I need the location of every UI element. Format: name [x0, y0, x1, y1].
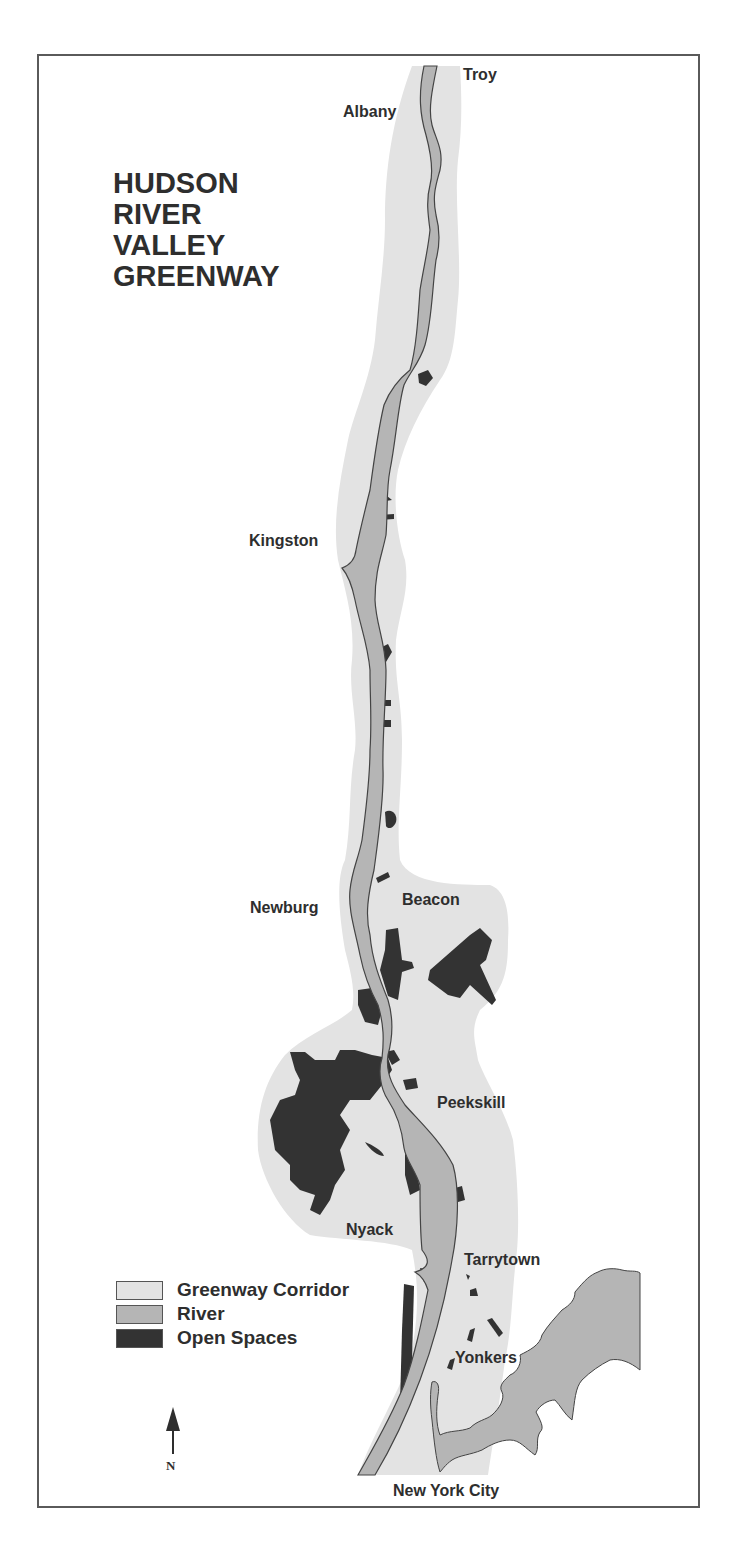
map-canvas	[0, 0, 742, 1556]
swatch-river	[116, 1305, 163, 1324]
swatch-greenway-corridor	[116, 1281, 163, 1300]
title-line-3: VALLEY	[113, 230, 280, 261]
legend-label: Greenway Corridor	[177, 1279, 349, 1301]
north-label: N	[166, 1458, 175, 1474]
label-kingston: Kingston	[249, 532, 318, 550]
label-beacon: Beacon	[402, 891, 460, 909]
label-peekskill: Peekskill	[437, 1094, 506, 1112]
north-arrow-icon	[166, 1407, 180, 1454]
title-line-1: HUDSON	[113, 168, 280, 199]
map-legend: Greenway Corridor River Open Spaces	[116, 1278, 349, 1350]
title-line-4: GREENWAY	[113, 261, 280, 292]
map-title: HUDSON RIVER VALLEY GREENWAY	[113, 168, 280, 292]
label-new-york-city: New York City	[393, 1482, 499, 1500]
label-albany: Albany	[343, 103, 396, 121]
label-tarrytown: Tarrytown	[464, 1251, 540, 1269]
legend-item-open-spaces: Open Spaces	[116, 1326, 349, 1350]
legend-label: Open Spaces	[177, 1327, 297, 1349]
legend-label: River	[177, 1303, 225, 1325]
label-newburg: Newburg	[250, 899, 318, 917]
legend-item-greenway-corridor: Greenway Corridor	[116, 1278, 349, 1302]
label-yonkers: Yonkers	[455, 1349, 517, 1367]
label-troy: Troy	[463, 66, 497, 84]
legend-item-river: River	[116, 1302, 349, 1326]
label-nyack: Nyack	[346, 1221, 393, 1239]
title-line-2: RIVER	[113, 199, 280, 230]
swatch-open-spaces	[116, 1329, 163, 1348]
